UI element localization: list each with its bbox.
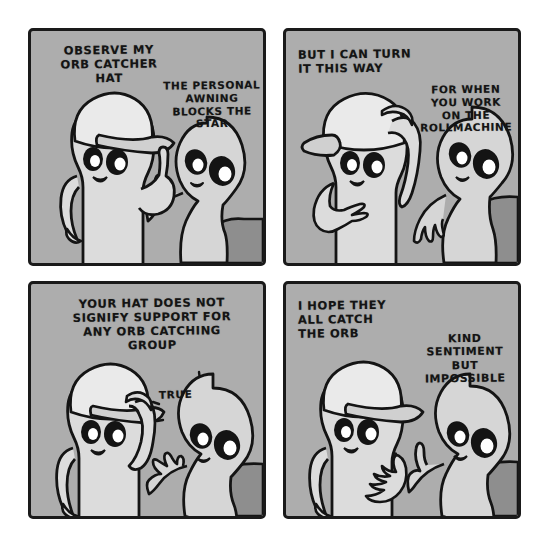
panel-1-speech-egg: THE PERSONAL AWNING BLOCKS THE STAR	[159, 78, 266, 130]
panel-4-speech-egg: KIND SENTIMENT BUT IMPOSSIBLE	[410, 331, 521, 386]
panel-3-speech-egg: YOUR HAT DOES NOT SIGNIFY SUPPORT FOR AN…	[45, 295, 260, 354]
egg-character-lowered-hand	[414, 195, 446, 243]
comic-strip: OBSERVE MY ORB CATCHER HAT THE PERSONAL …	[0, 0, 551, 542]
hat-character-cap-brim	[302, 135, 340, 156]
comic-panel-3: YOUR HAT DOES NOT SIGNIFY SUPPORT FOR AN…	[28, 281, 266, 519]
hat-character-arm-hip	[310, 448, 328, 515]
panel-1-speech-hat: OBSERVE MY ORB CATCHER HAT	[43, 42, 176, 86]
panel-3-speech-hat: TRUE	[159, 387, 219, 401]
panel-2-speech-hat: BUT I CAN TURN IT THIS WAY	[298, 46, 430, 76]
hat-character-arm-hip	[57, 448, 75, 515]
hat-character-arm-hip	[61, 176, 79, 239]
panel-4-speech-hat: I HOPE THEY ALL CATCH THE ORB	[298, 297, 427, 341]
panel-2-speech-egg: FOR WHEN YOU WORK ON THE ROLLMACHINE	[412, 82, 521, 135]
true-leader-dash	[153, 402, 159, 404]
egg-character-open-palm	[147, 453, 187, 494]
egg-character-pointing-hand	[408, 443, 444, 492]
comic-panel-1: OBSERVE MY ORB CATCHER HAT THE PERSONAL …	[28, 28, 266, 266]
comic-panel-4: I HOPE THEY ALL CATCH THE ORB KIND SENTI…	[283, 281, 521, 519]
comic-panel-2: BUT I CAN TURN IT THIS WAY FOR WHEN YOU …	[283, 28, 521, 266]
